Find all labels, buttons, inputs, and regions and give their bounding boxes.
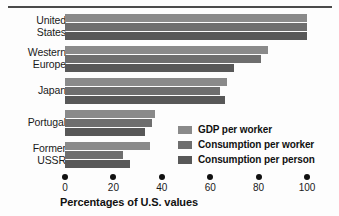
axis-tick-label: 80 bbox=[253, 182, 264, 193]
legend-item: Consumption per worker bbox=[178, 138, 315, 151]
chart-figure: UnitedStatesWesternEuropeJapanPortugalFo… bbox=[0, 0, 339, 216]
axis-tick-dot bbox=[207, 174, 213, 180]
axis-tick-label: 20 bbox=[108, 182, 119, 193]
category-label: Japan bbox=[2, 85, 66, 97]
category-label-line: Europe bbox=[2, 59, 66, 71]
category-label-line: Western bbox=[2, 47, 66, 59]
axis-tick-label: 100 bbox=[299, 182, 316, 193]
category-label: Portugal bbox=[2, 117, 66, 129]
bar bbox=[65, 87, 220, 95]
axis-tick-dot bbox=[110, 174, 116, 180]
bar bbox=[65, 46, 268, 54]
bar bbox=[65, 96, 225, 104]
legend-swatch bbox=[178, 126, 192, 134]
axis-tick-label: 40 bbox=[156, 182, 167, 193]
category-label-line: Portugal bbox=[2, 117, 66, 129]
axis-tick-dot bbox=[62, 174, 68, 180]
axis-tick-label: 0 bbox=[62, 182, 68, 193]
category-label-line: United bbox=[2, 15, 66, 27]
axis-tick-dot bbox=[304, 174, 310, 180]
category-label-line: States bbox=[2, 27, 66, 39]
bar bbox=[65, 110, 155, 118]
bar bbox=[65, 32, 307, 40]
axis-tick-label: 60 bbox=[205, 182, 216, 193]
axis-tick-dot bbox=[159, 174, 165, 180]
plot-area: UnitedStatesWesternEuropeJapanPortugalFo… bbox=[0, 0, 339, 216]
bar bbox=[65, 78, 227, 86]
category-label-line: Japan bbox=[2, 85, 66, 97]
chart-legend: GDP per workerConsumption per workerCons… bbox=[178, 123, 315, 168]
axis-tick-dot bbox=[256, 174, 262, 180]
x-axis-title: Percentages of U.S. values bbox=[60, 196, 198, 208]
legend-item: GDP per worker bbox=[178, 123, 315, 136]
bar bbox=[65, 160, 130, 168]
bar bbox=[65, 142, 150, 150]
legend-label: Consumption per worker bbox=[198, 139, 314, 150]
bar bbox=[65, 119, 152, 127]
bar bbox=[65, 128, 145, 136]
bar bbox=[65, 14, 307, 22]
category-label: UnitedStates bbox=[2, 15, 66, 38]
legend-item: Consumption per person bbox=[178, 153, 315, 166]
bar bbox=[65, 55, 261, 63]
category-label: WesternEurope bbox=[2, 47, 66, 70]
bar bbox=[65, 64, 234, 72]
bar bbox=[65, 151, 123, 159]
legend-swatch bbox=[178, 141, 192, 149]
category-label-line: USSR bbox=[2, 155, 66, 167]
category-label: FormerUSSR bbox=[2, 143, 66, 166]
legend-swatch bbox=[178, 156, 192, 164]
bar bbox=[65, 23, 307, 31]
legend-label: GDP per worker bbox=[198, 124, 272, 135]
legend-label: Consumption per person bbox=[198, 154, 315, 165]
category-label-line: Former bbox=[2, 143, 66, 155]
